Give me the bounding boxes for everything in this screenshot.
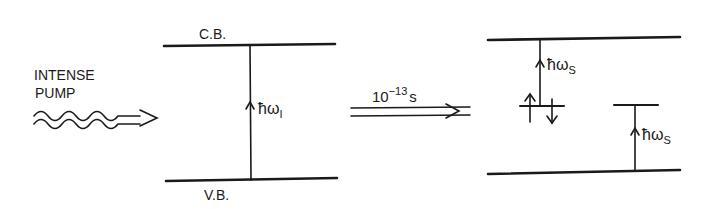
relaxation-time-label: 10−13s bbox=[372, 85, 417, 105]
right-lower-level bbox=[488, 170, 680, 174]
pump-arrowhead-icon bbox=[140, 110, 157, 126]
transition-1-energy-label: ħωS bbox=[547, 56, 576, 76]
energy-diagram: INTENSE PUMP C.B. V.B. ħωI 10−13s ħωS ħω… bbox=[0, 0, 718, 209]
pump-wave-upper bbox=[34, 112, 140, 121]
pump-label-line2: PUMP bbox=[35, 85, 75, 101]
right-upper-level bbox=[488, 37, 680, 40]
pump-label-line1: INTENSE bbox=[34, 67, 95, 83]
interband-transition-line bbox=[250, 46, 251, 180]
pump-wave-lower bbox=[34, 120, 140, 129]
valence-band-label: V.B. bbox=[204, 187, 229, 203]
conduction-band-label: C.B. bbox=[199, 26, 226, 42]
transition-2-energy-label: ħωS bbox=[642, 126, 671, 146]
pump-photon-energy-label: ħωI bbox=[258, 100, 282, 120]
